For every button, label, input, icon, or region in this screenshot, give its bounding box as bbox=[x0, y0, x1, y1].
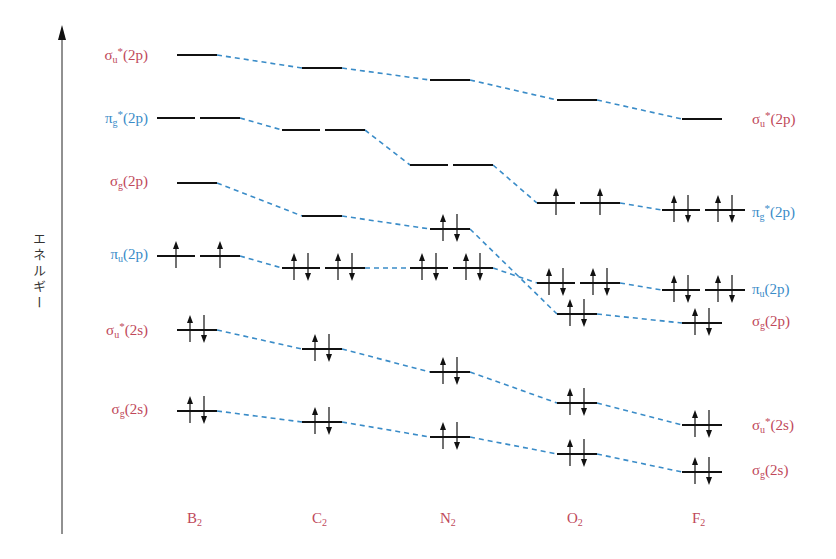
spin-down-arrow-icon bbox=[604, 288, 610, 296]
left-orbital-label: σu*(2p) bbox=[104, 46, 148, 65]
level-sigma_g_2s bbox=[682, 457, 722, 485]
molecule-label: C2 bbox=[312, 511, 327, 528]
spin-up-arrow-icon bbox=[335, 253, 341, 261]
connector-lines bbox=[217, 55, 682, 472]
connector-pi_g_star_2p bbox=[620, 203, 662, 210]
spin-up-arrow-icon bbox=[590, 268, 596, 276]
spin-up-arrow-icon bbox=[312, 407, 318, 415]
spin-up-arrow-icon bbox=[419, 253, 425, 261]
left-orbital-label: σu*(2s) bbox=[106, 321, 148, 340]
connector-pi_g_star_2p bbox=[240, 118, 282, 130]
level-sigma_u_star_2s bbox=[682, 410, 722, 438]
energy-axis bbox=[58, 25, 66, 534]
connector-pi_u_2p bbox=[620, 283, 662, 290]
molecule-label: B2 bbox=[187, 511, 202, 528]
spin-up-arrow-icon bbox=[553, 188, 559, 196]
spin-up-arrow-icon bbox=[546, 268, 552, 276]
connector-sigma_u_star_2p bbox=[597, 100, 682, 119]
level-pi_u_2p bbox=[410, 253, 493, 281]
connector-sigma_g_2s bbox=[342, 422, 430, 437]
spin-down-arrow-icon bbox=[454, 442, 460, 450]
connector-sigma_g_2s bbox=[470, 437, 557, 454]
spin-down-arrow-icon bbox=[201, 416, 207, 424]
spin-down-arrow-icon bbox=[454, 377, 460, 385]
right-orbital-label: σg(2s) bbox=[752, 463, 788, 480]
spin-down-arrow-icon bbox=[685, 295, 691, 303]
connector-sigma_u_star_2s bbox=[342, 349, 430, 372]
level-sigma_u_star_2s bbox=[557, 388, 597, 416]
spin-up-arrow-icon bbox=[671, 195, 677, 203]
left-orbital-label: πg*(2p) bbox=[105, 109, 148, 128]
connector-pi_g_star_2p bbox=[365, 130, 410, 165]
spin-down-arrow-icon bbox=[349, 273, 355, 281]
spin-up-arrow-icon bbox=[187, 315, 193, 323]
spin-up-arrow-icon bbox=[217, 241, 223, 249]
level-sigma_g_2p bbox=[430, 214, 470, 242]
spin-down-arrow-icon bbox=[326, 427, 332, 435]
level-sigma_u_star_2s bbox=[177, 315, 217, 343]
spin-down-arrow-icon bbox=[477, 273, 483, 281]
connector-sigma_g_2p bbox=[470, 229, 557, 314]
mo-diagram bbox=[0, 0, 836, 559]
spin-down-arrow-icon bbox=[581, 459, 587, 467]
right-orbital-label: σu*(2s) bbox=[752, 416, 794, 435]
molecule-label: F2 bbox=[692, 511, 705, 528]
connector-sigma_u_star_2s bbox=[217, 330, 302, 349]
connector-pi_g_star_2p bbox=[493, 165, 537, 203]
spin-down-arrow-icon bbox=[729, 215, 735, 223]
connector-sigma_g_2s bbox=[217, 411, 302, 422]
level-sigma_u_star_2s bbox=[430, 357, 470, 385]
spin-up-arrow-icon bbox=[597, 188, 603, 196]
spin-down-arrow-icon bbox=[305, 273, 311, 281]
spin-down-arrow-icon bbox=[581, 319, 587, 327]
connector-sigma_u_star_2s bbox=[597, 403, 682, 425]
level-sigma_g_2s bbox=[430, 422, 470, 450]
connector-sigma_g_2p bbox=[597, 314, 682, 323]
spin-up-arrow-icon bbox=[291, 253, 297, 261]
spin-down-arrow-icon bbox=[706, 477, 712, 485]
spin-up-arrow-icon bbox=[187, 396, 193, 404]
level-pi_u_2p bbox=[662, 275, 745, 303]
connector-sigma_u_star_2p bbox=[217, 55, 302, 68]
connector-sigma_g_2p bbox=[342, 216, 430, 229]
spin-up-arrow-icon bbox=[715, 275, 721, 283]
spin-down-arrow-icon bbox=[454, 234, 460, 242]
spin-up-arrow-icon bbox=[692, 457, 698, 465]
level-sigma_g_2s bbox=[557, 439, 597, 467]
left-orbital-label: πu(2p) bbox=[110, 247, 148, 264]
spin-down-arrow-icon bbox=[201, 335, 207, 343]
spin-up-arrow-icon bbox=[692, 410, 698, 418]
level-pi_g_star_2p bbox=[537, 188, 620, 215]
level-sigma_g_2p bbox=[682, 308, 722, 336]
spin-up-arrow-icon bbox=[173, 241, 179, 249]
spin-up-arrow-icon bbox=[463, 253, 469, 261]
spin-down-arrow-icon bbox=[433, 273, 439, 281]
connector-sigma_g_2p bbox=[217, 183, 302, 216]
level-pi_u_2p bbox=[537, 268, 620, 296]
right-orbital-label: πg*(2p) bbox=[752, 203, 795, 222]
connector-sigma_u_star_2s bbox=[470, 372, 557, 403]
spin-down-arrow-icon bbox=[706, 430, 712, 438]
level-sigma_u_star_2s bbox=[302, 334, 342, 362]
level-pi_u_2p bbox=[282, 253, 365, 281]
level-pi_u_2p bbox=[157, 241, 240, 268]
spin-up-arrow-icon bbox=[312, 334, 318, 342]
connector-pi_u_2p bbox=[493, 268, 537, 283]
spin-up-arrow-icon bbox=[567, 439, 573, 447]
energy-levels bbox=[157, 55, 745, 485]
molecule-label: O2 bbox=[567, 511, 583, 528]
spin-down-arrow-icon bbox=[685, 215, 691, 223]
axis-arrow-icon bbox=[58, 25, 66, 40]
spin-down-arrow-icon bbox=[560, 288, 566, 296]
level-sigma_g_2s bbox=[302, 407, 342, 435]
spin-up-arrow-icon bbox=[567, 388, 573, 396]
spin-up-arrow-icon bbox=[715, 195, 721, 203]
spin-down-arrow-icon bbox=[326, 354, 332, 362]
connector-pi_u_2p bbox=[240, 256, 282, 268]
level-sigma_g_2s bbox=[177, 396, 217, 424]
spin-up-arrow-icon bbox=[440, 214, 446, 222]
spin-down-arrow-icon bbox=[706, 328, 712, 336]
left-orbital-label: σg(2s) bbox=[112, 402, 148, 419]
spin-up-arrow-icon bbox=[671, 275, 677, 283]
left-orbital-label: σg(2p) bbox=[110, 174, 148, 191]
